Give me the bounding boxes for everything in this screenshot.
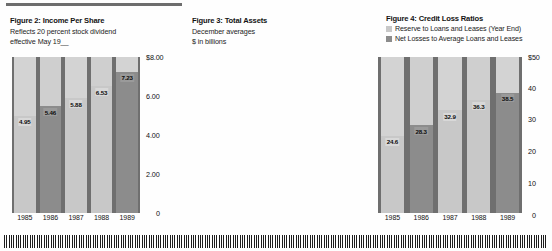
figure-2-bar-value-1988: 6.53 [95,88,108,96]
figure-2-track-1987: 5.88 [65,57,87,213]
scan-barcode-strip [4,235,548,248]
figure-2-track-1989: 7.23 [116,57,138,213]
figure-3-panel: Figure 3: Total Assets December averages… [186,0,386,251]
figure-2-panel: Figure 2: Income Per Share Reflects 20 p… [4,0,190,251]
figure-2-bar-1988 [91,86,113,213]
figure-3-title: Figure 3: Total Assets [192,16,267,25]
figure-3-header: Figure 3: Total Assets December averages… [192,16,267,46]
figure-4-panel: Figure 4: Credit Loss Ratios Reserve to … [384,0,552,251]
figure-2-title: Figure 2: Income Per Share [10,16,116,25]
figure-2-track-1985: 4.95 [14,57,36,213]
figure-2-bars: 4.95 5.46 5.88 [12,57,140,213]
figure-4-legend-item-net-losses: Net Losses to Average Loans and Leases [386,35,522,43]
figure-2-chart: 4.95 5.46 5.88 [12,57,140,213]
figure-2-ytick-3: 2.00 [146,170,160,179]
figure-2-x-axis: 1985 1986 1987 1988 1989 [12,214,140,221]
figure-2-xtick-1986: 1986 [38,214,64,221]
legend-swatch-reserve-icon [386,26,392,32]
figure-2-ytick-0: $8.00 [146,53,164,62]
figure-2-subtitle-line-1: Reflects 20 percent stock dividend [10,27,116,36]
figure-2-bar-1985 [14,116,36,213]
figure-2-bar-value-1987: 5.88 [69,100,82,108]
figure-4-legend-label-reserve: Reserve to Loans and Leases (Year End) [395,25,521,33]
figure-3-subtitle-line-2: $ in billions [192,37,267,46]
figure-2-xtick-1985: 1985 [12,214,38,221]
figure-2-track-1988: 6.53 [91,57,113,213]
figure-4-title: Figure 4: Credit Loss Ratios [386,14,522,23]
legend-swatch-net-losses-icon [386,36,392,42]
figure-2-ytick-2: 4.00 [146,131,160,140]
figure-3-subtitle-line-1: December averages [192,27,267,36]
figure-2-bar-slot-1985: 4.95 [14,57,36,213]
figure-2-bar-slot-1986: 5.46 [40,57,62,213]
figure-4-legend-item-reserve: Reserve to Loans and Leases (Year End) [386,25,522,33]
figure-2-bar-value-1986: 5.46 [44,108,57,116]
figure-2-bar-slot-1989: 7.23 [116,57,138,213]
figure-2-ytick-1: 6.00 [146,92,160,101]
figure-2-ytick-4: 0 [156,209,160,218]
figure-2-header: Figure 2: Income Per Share Reflects 20 p… [10,16,116,46]
figure-2-bar-slot-1987: 5.88 [65,57,87,213]
figure-2-xtick-1988: 1988 [89,214,115,221]
figure-2-track-1986: 5.46 [40,57,62,213]
figure-4-legend-label-net-losses: Net Losses to Average Loans and Leases [395,35,522,43]
figure-2-bar-slot-1988: 6.53 [91,57,113,213]
figure-2-y-axis: $8.00 6.00 4.00 2.00 0 [144,53,188,221]
figure-2-bar-1987 [65,98,87,213]
figure-2-bar-value-1985: 4.95 [18,118,31,126]
figure-2-bar-1989 [116,72,138,213]
scanned-report-page: Figure 2: Income Per Share Reflects 20 p… [0,0,552,251]
figure-2-xtick-1987: 1987 [63,214,89,221]
figure-2-bar-value-1989: 7.23 [120,74,133,82]
figure-4-header: Figure 4: Credit Loss Ratios Reserve to … [386,14,522,43]
figure-2-subtitle-line-2: effective May 19__ [10,37,116,46]
figure-2-xtick-1989: 1989 [114,214,140,221]
figure-2-bar-1986 [40,106,62,213]
